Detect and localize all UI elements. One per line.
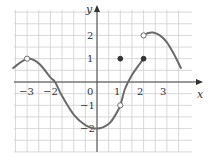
y-tick-label: 2: [87, 30, 93, 41]
x-tick-label: 1: [114, 86, 120, 97]
x-tick-label: 2: [137, 86, 143, 97]
open-point-marker: [141, 33, 146, 38]
x-tick-label: 3: [160, 86, 166, 97]
x-tick-label: −2: [43, 86, 58, 97]
x-tick-label: −3: [19, 86, 34, 97]
filled-point-marker: [141, 56, 146, 61]
x-axis-label: x: [197, 88, 204, 101]
filled-point-marker: [118, 56, 123, 61]
curve-piece-2: [144, 32, 181, 68]
open-point-marker: [118, 103, 123, 108]
y-tick-label: −1: [80, 100, 95, 111]
open-point-marker: [25, 56, 30, 61]
y-axis-label: y: [85, 3, 93, 16]
function-graph: x y −3 −2 0 1 2 3 2 1 −1 −2: [0, 0, 208, 160]
y-axis-arrow-icon: [94, 5, 100, 12]
grid: [14, 10, 192, 152]
origin-label: 0: [87, 86, 93, 97]
y-tick-label: 1: [87, 53, 93, 64]
x-axis-arrow-icon: [196, 79, 203, 85]
